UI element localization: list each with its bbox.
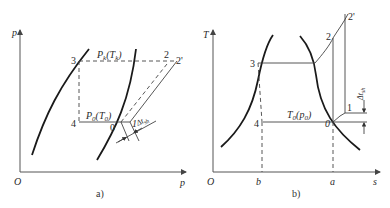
point-2prime-label-b: 2'	[348, 11, 355, 22]
superheat-arrow-left-a	[118, 138, 126, 143]
point-2-label-a: 2	[164, 49, 169, 60]
point-3-label-b: 3	[250, 58, 255, 69]
origin-label-b: O	[207, 176, 214, 187]
point-1-label-b: 1	[347, 102, 352, 113]
saturated-vapor-curve-a	[97, 49, 136, 160]
superheat-line-b	[333, 113, 367, 122]
saturated-vapor-curve-b	[300, 36, 360, 150]
point-0-label-b: 0	[325, 118, 330, 129]
point-2-label-b: 2	[326, 31, 331, 42]
x-axis-label-b: s	[373, 176, 377, 187]
diagram-canvas: p p O 3 4 0 1 2 2' Pk(Tk)	[0, 0, 390, 208]
point-0-label-a: 0	[110, 122, 115, 133]
caption-b: b)	[292, 188, 300, 200]
y-axis-label-a: p	[11, 27, 17, 38]
point-4-label-a: 4	[71, 118, 76, 129]
figure-b: T s O b a Δtsh 3 4 0 1 2	[203, 11, 380, 200]
point-4-label-b: 4	[254, 118, 259, 129]
compression-curve-b	[315, 14, 348, 63]
caption-a: a)	[96, 188, 104, 200]
figure-a: p p O 3 4 0 1 2 2' Pk(Tk)	[11, 27, 186, 200]
y-axis-label-b: T	[203, 29, 210, 40]
real-compression-line-a	[130, 61, 177, 122]
tick-a-label: a	[330, 176, 335, 187]
origin-label-a: O	[14, 176, 21, 187]
point-2prime-label-a: 2'	[176, 55, 183, 66]
condensing-pressure-label-a: Pk(Tk)	[96, 49, 122, 62]
evaporating-pressure-label-a: P0(T0)	[85, 110, 112, 123]
evaporating-temp-label-b: T0(p0)	[287, 109, 312, 122]
saturated-liquid-curve-a	[32, 49, 89, 155]
point-3-label-a: 3	[71, 55, 76, 66]
tick-b-label: b	[256, 176, 261, 187]
saturated-liquid-curve-b	[221, 35, 273, 147]
x-axis-label-a: p	[179, 177, 185, 188]
superheat-label-b: Δtsh	[356, 88, 366, 101]
